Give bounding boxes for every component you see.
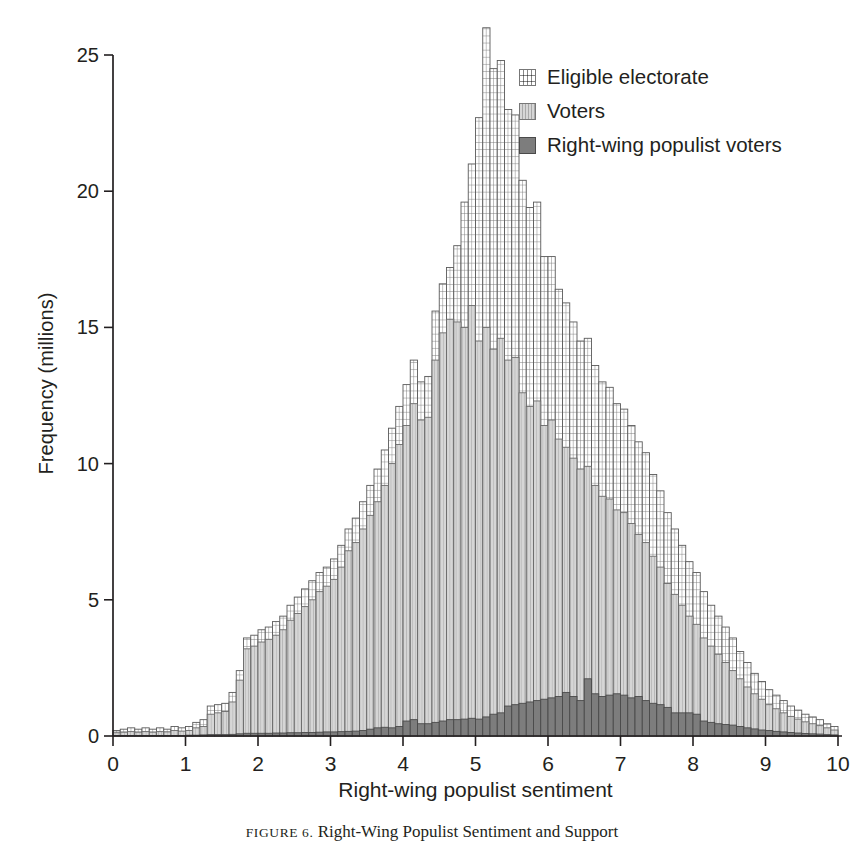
histogram-bar [265, 639, 272, 736]
x-tick-label: 6 [528, 752, 568, 776]
histogram-bar [628, 698, 635, 736]
x-tick-label: 7 [601, 752, 641, 776]
histogram-bar [461, 327, 468, 736]
histogram-bar [577, 701, 584, 736]
histogram-bar [512, 705, 519, 736]
x-tick-label: 3 [311, 752, 351, 776]
series-2-bars [113, 306, 838, 736]
histogram-bar [280, 630, 287, 736]
histogram-bar [570, 458, 577, 736]
histogram-bar [693, 714, 700, 736]
histogram-bar [751, 729, 758, 736]
x-tick-label: 4 [383, 752, 423, 776]
x-tick-label: 9 [746, 752, 786, 776]
histogram-bar [461, 719, 468, 736]
x-tick-label: 1 [166, 752, 206, 776]
histogram-bar [592, 694, 599, 736]
histogram-bar [758, 730, 765, 736]
legend-swatch-icon [519, 69, 536, 86]
histogram-figure: 0510152025 012345678910 Frequency (milli… [0, 0, 864, 842]
histogram-bar [389, 728, 396, 736]
histogram-bar [222, 711, 229, 736]
histogram-bar [215, 713, 222, 736]
histogram-bar [476, 341, 483, 736]
legend-item: Eligible electorate [519, 62, 782, 92]
y-tick-label: 25 [57, 44, 99, 67]
x-tick-label: 2 [238, 752, 278, 776]
histogram-bar [555, 439, 562, 736]
histogram-bar [563, 692, 570, 736]
histogram-bar [526, 406, 533, 736]
histogram-bar [381, 727, 388, 736]
histogram-bar [410, 404, 417, 736]
histogram-bar [454, 720, 461, 736]
histogram-bar [744, 728, 751, 736]
histogram-bar [534, 701, 541, 736]
histogram-bar [468, 306, 475, 736]
histogram-bar [468, 718, 475, 736]
histogram-bar [657, 705, 664, 736]
histogram-bar [345, 551, 352, 736]
histogram-bar [396, 445, 403, 736]
histogram-bar [497, 338, 504, 736]
histogram-bar [686, 713, 693, 736]
histogram-bar [650, 703, 657, 736]
histogram-bar [671, 713, 678, 736]
chart-legend: Eligible electorateVotersRight-wing popu… [519, 62, 782, 164]
histogram-bar [548, 420, 555, 736]
histogram-bar [483, 717, 490, 736]
histogram-bar [403, 721, 410, 736]
histogram-bar [577, 469, 584, 736]
histogram-bar [287, 620, 294, 736]
histogram-bar [512, 357, 519, 736]
histogram-bar [700, 721, 707, 736]
histogram-bar [505, 360, 512, 736]
histogram-bar [396, 726, 403, 736]
histogram-bar [389, 464, 396, 736]
histogram-bar [309, 600, 316, 736]
histogram-bar [374, 728, 381, 736]
histogram-bar [374, 502, 381, 736]
histogram-bar [432, 360, 439, 736]
histogram-bar [505, 706, 512, 736]
histogram-bar [621, 695, 628, 736]
figure-caption: FIGURE 6. Right-Wing Populist Sentiment … [0, 822, 864, 842]
histogram-bar [584, 679, 591, 736]
histogram-bar [519, 703, 526, 736]
legend-swatch-icon [519, 137, 536, 154]
histogram-bar [258, 642, 265, 736]
histogram-bar [418, 724, 425, 736]
histogram-bar [425, 417, 432, 736]
histogram-bar [403, 425, 410, 736]
histogram-bar [729, 725, 736, 736]
histogram-bar [447, 720, 454, 736]
figure-caption-text: Right-Wing Populist Sentiment and Suppor… [318, 822, 619, 841]
histogram-bar [244, 649, 251, 736]
histogram-bar [302, 607, 309, 736]
histogram-bar [679, 713, 686, 736]
legend-item-label: Eligible electorate [547, 65, 709, 89]
histogram-bar [294, 613, 301, 736]
histogram-bar [410, 720, 417, 736]
y-axis-title: Frequency (millions) [35, 234, 58, 534]
legend-item: Voters [519, 96, 782, 126]
histogram-bar [418, 420, 425, 736]
histogram-bar [541, 425, 548, 736]
histogram-bar [425, 724, 432, 736]
x-tick-label: 10 [818, 752, 858, 776]
histogram-bar [548, 698, 555, 736]
histogram-bar [338, 567, 345, 736]
y-tick-label: 20 [57, 180, 99, 203]
histogram-bar [541, 699, 548, 736]
histogram-bar [715, 724, 722, 736]
histogram-bar [352, 543, 359, 736]
histogram-bar [229, 702, 236, 736]
histogram-bar [236, 680, 243, 736]
histogram-bar [599, 697, 606, 737]
figure-caption-label: FIGURE 6. [246, 825, 314, 840]
histogram-bar [447, 319, 454, 736]
y-tick-label: 0 [57, 725, 99, 748]
x-tick-label: 0 [93, 752, 133, 776]
histogram-bar [439, 721, 446, 736]
histogram-bar [316, 592, 323, 736]
